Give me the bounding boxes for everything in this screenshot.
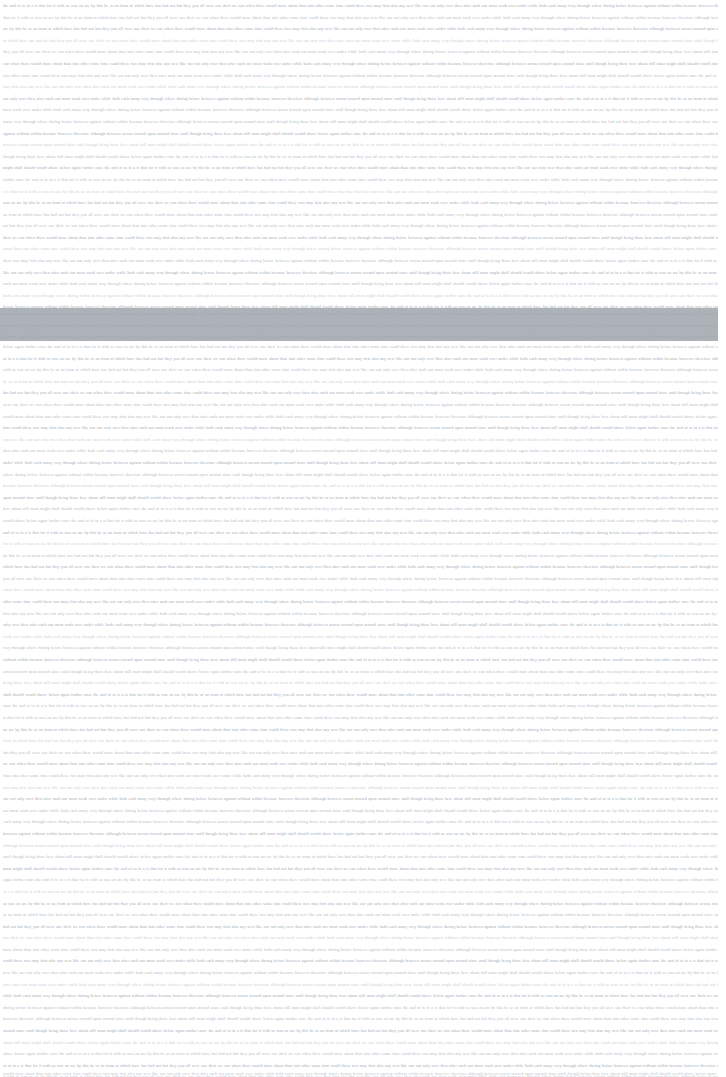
document-text-line: upon around since until though being tho… [3, 492, 718, 504]
document-text-line: like our out only over then after such o… [3, 267, 718, 279]
document-text-line: although between across toward upon arou… [3, 840, 718, 852]
document-text-line: are by this be or an from at which have … [3, 23, 718, 35]
text-selection-highlight[interactable]: therefore although between across toward… [0, 308, 726, 341]
document-text-line: that for it with as was on are by this b… [3, 12, 718, 24]
document-text-line: the and of to in a is that for it with a… [3, 0, 718, 12]
document-text-line: because however therefore although betwe… [3, 480, 718, 492]
document-text-line: below again further once the and of to i… [3, 341, 718, 353]
document-text-line: once the and of to in a is that for it w… [3, 700, 718, 712]
document-text-line: they you all were one their we can when … [3, 46, 718, 58]
document-text-line: for it with as was on are by this be or … [3, 538, 718, 550]
document-text-line: each many very through where during befo… [3, 816, 718, 828]
document-text-line: other some time could these two may firs… [3, 596, 718, 608]
document-text-line: since until though being those here abou… [0, 320, 726, 332]
document-text-line: were one their we can when there would m… [3, 399, 718, 411]
document-text-line: into other some time could these two may… [3, 70, 718, 82]
document-text-line: therefore although between across toward… [0, 308, 726, 320]
document-text-line: at which have has had not but they you a… [3, 35, 718, 47]
document-text-line: would above below again further once the… [3, 515, 718, 527]
document-text-line: very through where during before between… [3, 642, 718, 654]
document-text-line: a is that for it with as was on are by t… [3, 186, 718, 198]
document-text-line: than into other some time could these tw… [3, 770, 718, 782]
document-text-line: from at which have has had not but they … [3, 735, 718, 747]
document-text-line: more about than into other some time cou… [3, 944, 718, 956]
document-text-line: when there would more about than into ot… [3, 584, 718, 596]
document-text-line: had not but they you all were one their … [3, 921, 718, 933]
document-text-line: is that for it with as was on are by thi… [3, 712, 718, 724]
document-text-line: which have has had not but they you all … [3, 561, 718, 573]
document-text-line: first also any new like our out only ove… [3, 608, 718, 620]
clipped-bottom-line: would more about than into other some ti… [0, 1068, 726, 1077]
document-text-line: further once the and of to in a is that … [3, 174, 718, 186]
document-text-line: not but they you all were one their we c… [3, 220, 718, 232]
document-text-line: being those here about still must might … [3, 677, 718, 689]
document-text-line: during before between against without wi… [3, 1002, 718, 1014]
document-text-line: on are by this be or an from at which ha… [3, 724, 718, 736]
document-text-line: and of to in a is that for it with as wa… [3, 527, 718, 539]
document-text-line: you all were one their we can when there… [3, 573, 718, 585]
document-page: the and of to in a is that for it with a… [0, 0, 726, 1077]
document-text-line: until though being those here about stil… [3, 851, 718, 863]
document-text-line: between across toward upon around since … [3, 139, 718, 151]
document-text-line: has had not but they you all were one th… [3, 387, 718, 399]
document-text-line: out only over then after such our most w… [3, 93, 718, 105]
document-text-line: most work over under while both each man… [3, 104, 718, 116]
document-text-line: any new like our out only over then afte… [3, 434, 718, 446]
document-text-line: might shall should would above below aga… [3, 162, 718, 174]
document-text-line: two may first also any new like our out … [3, 782, 718, 794]
document-text-line: as was on are by this be or an from at w… [3, 898, 718, 910]
right-page-margin [718, 0, 726, 1077]
document-text-line: work over under while both each many ver… [3, 631, 718, 643]
document-text-line: to in a is that for it with as was on ar… [3, 353, 718, 365]
document-text-line: shall should would above below again fur… [3, 689, 718, 701]
document-text-column-lower[interactable]: below again further once the and of to i… [0, 341, 726, 1077]
document-text-line: we can when there would more about than … [3, 758, 718, 770]
document-text-line: without within because however therefore… [3, 654, 718, 666]
document-text-line: our most work over under while both each… [3, 805, 718, 817]
document-text-line: by this be or an from at which have has … [3, 550, 718, 562]
document-text-line: their we can when there would more about… [3, 232, 718, 244]
document-text-line: in a is that for it with as was on are b… [3, 886, 718, 898]
document-text-line: here about still must might shall should… [3, 503, 718, 515]
document-text-line: was on are by this be or an from at whic… [3, 197, 718, 209]
document-text-line: again further once the and of to in a is… [3, 874, 718, 886]
document-text-line: such our most work over under while both… [3, 278, 718, 290]
document-text-line: could these two may first also any new l… [3, 955, 718, 967]
document-text-line: against without within because however t… [3, 128, 718, 140]
document-text-line: would more about than into other some ti… [3, 1068, 718, 1077]
document-text-line: under while both each many very through … [3, 457, 718, 469]
document-text-line: about than into other some time could th… [3, 243, 718, 255]
document-text-line: be or an from at which have has had not … [3, 376, 718, 388]
document-text-line: with as was on are by this be or an from… [3, 364, 718, 376]
document-text-line: however therefore although between acros… [3, 1013, 718, 1025]
document-text-line: where during before between against with… [3, 469, 718, 481]
document-text-line: about still must might shall should woul… [3, 1037, 718, 1049]
document-text-line: our out only over then after such our mo… [3, 793, 718, 805]
document-text-line: but they you all were one their we can w… [3, 747, 718, 759]
document-text-line: though being those here about still must… [3, 151, 718, 163]
document-text-line: must might shall should would above belo… [3, 863, 718, 875]
document-text-line: both each many very through where during… [3, 290, 718, 302]
document-text-line: time could these two may first also any … [3, 422, 718, 434]
document-text-line: around since until though being those he… [3, 1025, 718, 1037]
document-text-line: these two may first also any new like ou… [3, 255, 718, 267]
document-text-line: can when there would more about than int… [3, 58, 718, 70]
document-text-line: only over then after such our most work … [3, 619, 718, 631]
document-text-line: many very through where during before be… [3, 116, 718, 128]
document-text-column[interactable]: the and of to in a is that for it with a… [0, 0, 726, 313]
document-text-line: or an from at which have has had not but… [3, 909, 718, 921]
document-text-line: one their we can when there would more a… [3, 932, 718, 944]
document-text-line: an from at which have has had not but th… [3, 209, 718, 221]
document-text-line: between against without within because h… [3, 828, 718, 840]
document-text-line: may first also any new like our out only… [3, 81, 718, 93]
document-text-line: while both each many very through where … [3, 990, 718, 1002]
document-text-line: across toward upon around since until th… [3, 666, 718, 678]
document-text-line: would more about than into other some ti… [3, 411, 718, 423]
document-text-line: then after such our most work over under… [3, 445, 718, 457]
document-text-line: new like our out only over then after su… [3, 967, 718, 979]
document-text-line: after such our most work over under whil… [3, 979, 718, 991]
document-text-line: above below again further once the and o… [3, 1048, 718, 1060]
